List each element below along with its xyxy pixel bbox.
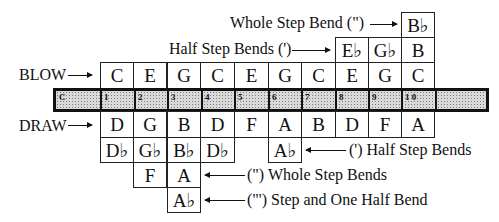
draw-half-bend-hole-4: D♭ bbox=[200, 137, 235, 163]
blow-note-3: G bbox=[167, 62, 201, 89]
draw-half-step-bends-label: (') Half Step Bends bbox=[349, 142, 471, 158]
draw-step-half-bend-hole-3: A♭ bbox=[167, 187, 201, 213]
hole-number-4: 4 bbox=[201, 91, 235, 109]
blow-note-2: E bbox=[133, 62, 167, 89]
arrow-right-icon bbox=[292, 50, 330, 51]
hole-number-6: 6 bbox=[268, 91, 302, 109]
blow-half-step-bends-label: Half Step Bends (') bbox=[169, 41, 291, 57]
draw-note-3: B bbox=[167, 111, 201, 138]
draw-note-7: B bbox=[301, 111, 336, 138]
blow-whole-step-bend-label: Whole Step Bend (") bbox=[230, 15, 364, 31]
arrow-right-icon bbox=[68, 75, 92, 76]
blow-note-9: G bbox=[368, 62, 402, 89]
draw-whole-bend-hole-3: A bbox=[167, 162, 201, 188]
harmonica-comb-strip: C 1 2 3 4 5 6 7 8 9 1 0 bbox=[53, 88, 489, 112]
blow-note-1: C bbox=[100, 62, 134, 89]
arrow-left-icon bbox=[306, 150, 346, 151]
blow-note-4: C bbox=[200, 62, 235, 89]
hole-number-8: 8 bbox=[335, 91, 369, 109]
hole-number-10: 1 0 bbox=[401, 91, 435, 109]
draw-note-4: D bbox=[200, 111, 235, 138]
blow-whole-bend-hole-10: B♭ bbox=[401, 12, 435, 38]
draw-note-8: D bbox=[335, 111, 369, 138]
draw-note-6: A bbox=[268, 111, 302, 138]
hole-number-7: 7 bbox=[301, 91, 335, 109]
draw-note-1: D bbox=[100, 111, 134, 138]
arrow-right-icon bbox=[370, 24, 397, 25]
draw-half-bend-hole-6: A♭ bbox=[268, 137, 302, 163]
draw-step-and-half-bend-label: ("') Step and One Half Bend bbox=[247, 192, 427, 208]
draw-note-9: F bbox=[368, 111, 402, 138]
hole-number-5: 5 bbox=[234, 91, 268, 109]
blow-half-bend-hole-10: B bbox=[401, 37, 435, 63]
arrow-left-icon bbox=[205, 175, 245, 176]
hole-number-9: 9 bbox=[368, 91, 402, 109]
comb-end-blank bbox=[435, 91, 487, 109]
draw-note-10: A bbox=[401, 111, 435, 138]
blow-note-6: G bbox=[268, 62, 302, 89]
draw-label: DRAW bbox=[19, 118, 67, 134]
blow-label: BLOW bbox=[19, 67, 66, 83]
blow-half-bend-hole-9: G♭ bbox=[368, 37, 402, 63]
blow-half-bend-hole-8: E♭ bbox=[335, 37, 369, 63]
draw-whole-step-bends-label: (") Whole Step Bends bbox=[247, 167, 387, 183]
hole-number-2: 2 bbox=[134, 91, 168, 109]
blow-note-8: E bbox=[335, 62, 369, 89]
blow-note-10: C bbox=[401, 62, 435, 89]
blow-note-7: C bbox=[301, 62, 336, 89]
hole-number-1: 1 bbox=[100, 91, 134, 109]
draw-whole-bend-hole-2: F bbox=[133, 162, 167, 188]
arrow-left-icon bbox=[205, 200, 245, 201]
draw-half-bend-hole-1: D♭ bbox=[100, 137, 134, 163]
harmonica-key-label: C bbox=[59, 92, 66, 102]
draw-note-5: F bbox=[234, 111, 269, 138]
arrow-right-icon bbox=[68, 125, 92, 126]
draw-half-bend-hole-2: G♭ bbox=[133, 137, 167, 163]
blow-note-5: E bbox=[234, 62, 269, 89]
hole-number-3: 3 bbox=[167, 91, 201, 109]
draw-half-bend-hole-3: B♭ bbox=[167, 137, 201, 163]
draw-note-2: G bbox=[133, 111, 167, 138]
